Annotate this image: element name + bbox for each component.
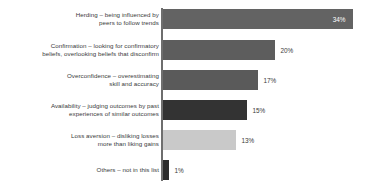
bar[interactable] [163, 160, 169, 180]
bar-value-label: 15% [253, 107, 266, 114]
category-label: Herding – being influenced by peers to f… [3, 11, 159, 28]
bar[interactable] [163, 40, 275, 60]
bar-value-label: 34% [333, 16, 346, 23]
bar[interactable]: 34% [163, 9, 353, 29]
category-label-line2: experiences of similar outcomes [3, 110, 159, 118]
category-label-line2: beliefs, overlooking beliefs that discon… [3, 50, 159, 58]
category-label-line1: Overconfidence – overestimating [3, 72, 159, 80]
bar-track: 34% [163, 9, 353, 29]
bar-track: 13% [163, 130, 255, 150]
category-label-line2: skill and accuracy [3, 80, 159, 88]
bar-track: 1% [163, 160, 184, 180]
bar-value-label: 20% [281, 47, 294, 54]
category-label-line2: more than liking gains [3, 140, 159, 148]
bar[interactable] [163, 130, 236, 150]
bar-value-label: 13% [242, 137, 255, 144]
category-axis-line [161, 8, 163, 181]
bar[interactable] [163, 100, 247, 120]
category-label: Overconfidence – overestimating skill an… [3, 72, 159, 89]
bar-chart: Herding – being influenced by peers to f… [0, 0, 368, 193]
bar-track: 17% [163, 70, 277, 90]
bar-row: Overconfidence – overestimating skill an… [0, 70, 368, 90]
bar-track: 15% [163, 100, 266, 120]
category-label-line1: Herding – being influenced by [3, 11, 159, 19]
category-label-line1: Availability – judging outcomes by past [3, 102, 159, 110]
category-label-line2: peers to follow trends [3, 19, 159, 27]
bar[interactable] [163, 70, 258, 90]
bar-row: Confirmation – looking for confirmatory … [0, 40, 368, 60]
category-label: Loss aversion – disliking losses more th… [3, 132, 159, 149]
category-label: Others – not in this list [3, 166, 159, 174]
category-label: Confirmation – looking for confirmatory … [3, 42, 159, 59]
bar-row: Loss aversion – disliking losses more th… [0, 130, 368, 150]
category-label-line1: Loss aversion – disliking losses [3, 132, 159, 140]
bar-track: 20% [163, 40, 294, 60]
bar-row: Herding – being influenced by peers to f… [0, 9, 368, 29]
category-label-line1: Others – not in this list [3, 166, 159, 174]
category-label-line1: Confirmation – looking for confirmatory [3, 42, 159, 50]
bar-row: Availability – judging outcomes by past … [0, 100, 368, 120]
bar-row: Others – not in this list 1% [0, 160, 368, 180]
category-label: Availability – judging outcomes by past … [3, 102, 159, 119]
bar-value-label: 17% [264, 77, 277, 84]
bar-value-label: 1% [175, 167, 184, 174]
